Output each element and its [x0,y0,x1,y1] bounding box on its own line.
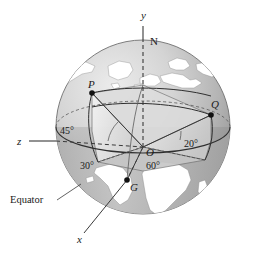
globe-diagram: y N z x P Q O G 45° 20° 30° 60° Equator [0,0,258,256]
origin-label: O [146,147,154,158]
angle-longitude-q: 60° [146,161,160,171]
point-q-label: Q [211,99,219,110]
x-axis-label: x [77,234,82,245]
marker-p [89,90,95,96]
angle-longitude-p: 30° [80,161,94,171]
north-pole-label: N [150,36,158,47]
equator-label: Equator [10,195,43,206]
z-axis-label: z [17,136,21,147]
point-p-label: P [88,79,95,90]
angle-latitude-p: 45° [60,126,74,136]
globe-svg [0,0,258,256]
marker-q [208,112,214,118]
point-g-label: G [130,182,138,193]
angle-latitude-q: 20° [184,139,198,149]
marker-g [124,177,130,183]
y-axis-label: y [141,10,146,21]
equator-leader [57,184,81,200]
